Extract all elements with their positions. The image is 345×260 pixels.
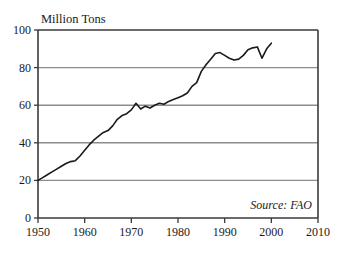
chart-background [0, 0, 345, 260]
y-tick-label-60: 60 [19, 98, 31, 112]
x-tick-label-1950: 1950 [26, 225, 50, 239]
y-tick-label-20: 20 [19, 173, 31, 187]
x-tick-label-1960: 1960 [73, 225, 97, 239]
chart-container: 020406080100 195019601970198019902000201… [0, 0, 345, 260]
x-tick-label-1970: 1970 [119, 225, 143, 239]
x-tick-label-1980: 1980 [166, 225, 190, 239]
source-annotation: Source: FAO [250, 198, 312, 212]
x-tick-label-2000: 2000 [259, 225, 283, 239]
x-tick-label-1990: 1990 [213, 225, 237, 239]
x-tick-label-2010: 2010 [306, 225, 330, 239]
y-tick-label-0: 0 [25, 211, 31, 225]
line-chart: 020406080100 195019601970198019902000201… [0, 0, 345, 260]
y-axis-label: Million Tons [41, 12, 106, 26]
y-tick-label-40: 40 [19, 136, 31, 150]
y-tick-label-80: 80 [19, 61, 31, 75]
y-tick-label-100: 100 [13, 23, 31, 37]
